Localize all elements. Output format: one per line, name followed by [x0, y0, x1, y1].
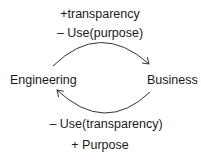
node-engineering: Engineering [10, 74, 77, 87]
bottom-label-purpose: + Purpose [71, 139, 128, 152]
top-label-transparency: +transparency [60, 8, 140, 21]
bottom-arrow [57, 90, 150, 113]
top-arrow [53, 42, 149, 66]
bottom-label-use-transparency: – Use(transparency) [49, 118, 162, 131]
top-label-use-purpose: – Use(purpose) [57, 27, 143, 40]
node-business: Business [147, 74, 198, 87]
